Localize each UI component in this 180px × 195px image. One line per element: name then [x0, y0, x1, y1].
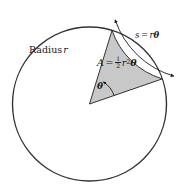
area-formula-equals: =: [104, 57, 115, 68]
circle-sector-figure: Radiusr A=12r2θ s=rθ θ: [0, 0, 180, 195]
area-formula-lhs: A: [97, 57, 104, 68]
radius-label: Radiusr: [29, 45, 68, 55]
area-formula-denominator: 2: [115, 62, 121, 69]
area-formula-angle: θ: [130, 57, 136, 68]
area-formula-label: A=12r2θ: [97, 56, 137, 69]
arc-length-formula-label: s=rθ: [135, 31, 159, 40]
area-formula-fraction: 12: [115, 56, 121, 69]
radius-label-text: Radius: [29, 44, 62, 55]
radius-label-variable: r: [62, 44, 68, 55]
arc-formula-equals: =: [139, 30, 149, 40]
arc-formula-angle: θ: [154, 30, 160, 40]
theta-symbol-label: θ: [97, 82, 103, 91]
